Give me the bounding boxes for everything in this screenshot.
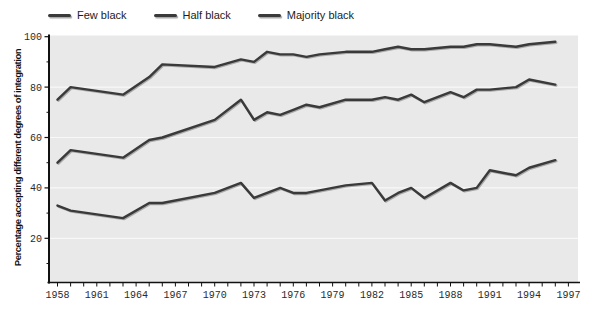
x-tick-label-1988: 1988 (438, 290, 462, 301)
x-tick-label-1997: 1997 (556, 290, 580, 301)
x-tick-label-1982: 1982 (360, 290, 384, 301)
x-tick-label-1958: 1958 (45, 290, 69, 301)
x-tick-label-1979: 1979 (321, 290, 345, 301)
plot-background (49, 36, 578, 283)
x-tick-label-1991: 1991 (478, 290, 502, 301)
y-tick-label-40: 40 (30, 183, 42, 194)
y-tick-label-20: 20 (30, 234, 42, 245)
x-tick-label-1973: 1973 (242, 290, 266, 301)
x-tick-label-1994: 1994 (517, 290, 541, 301)
x-tick-label-1967: 1967 (163, 290, 187, 301)
x-tick-label-1964: 1964 (124, 290, 148, 301)
x-tick-label-1961: 1961 (85, 290, 109, 301)
integration-attitudes-chart: Percentage accepting different degrees o… (0, 0, 594, 316)
y-tick-label-60: 60 (30, 133, 42, 144)
line-chart-plot: 2040608010019581961196419671970197319761… (0, 0, 594, 316)
y-tick-label-80: 80 (30, 83, 42, 94)
x-tick-label-1985: 1985 (399, 290, 423, 301)
y-tick-label-100: 100 (24, 32, 42, 43)
x-tick-label-1976: 1976 (281, 290, 305, 301)
x-tick-label-1970: 1970 (203, 290, 227, 301)
